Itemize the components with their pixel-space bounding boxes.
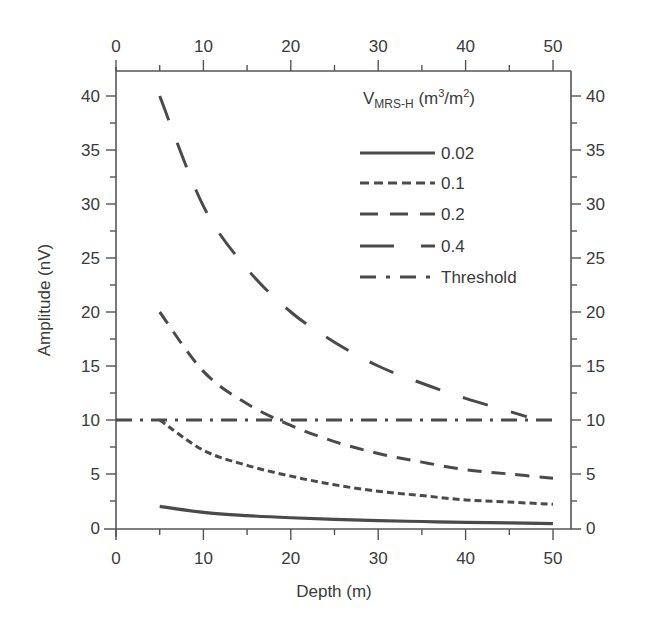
right-y-tick-label: 10	[586, 411, 605, 430]
legend-entry-label: 0.4	[441, 237, 465, 256]
top-x-tick-label: 20	[281, 37, 300, 56]
right-y-tick-label: 40	[586, 87, 605, 106]
legend-title: VMRS-H (m3/m2)	[363, 87, 475, 111]
right-y-tick-label: 5	[586, 465, 595, 484]
series-line-0-2	[160, 312, 553, 478]
left-y-tick-label: 20	[81, 303, 100, 322]
left-y-tick-label: 40	[81, 87, 100, 106]
bottom-x-tick-label: 10	[194, 549, 213, 568]
y-axis-title: Amplitude (nV)	[35, 244, 54, 356]
top-x-tick-label: 0	[111, 37, 120, 56]
left-y-tick-label: 25	[81, 249, 100, 268]
right-y-tick-label: 15	[586, 357, 605, 376]
legend: VMRS-H (m3/m2)0.020.10.20.4Threshold	[360, 87, 517, 287]
top-x-tick-label: 40	[456, 37, 475, 56]
left-y-tick-label: 5	[91, 465, 100, 484]
axis-ticks	[106, 60, 581, 540]
legend-entry-label: 0.1	[441, 174, 465, 193]
plot-frame	[104, 67, 581, 537]
top-x-tick-label: 10	[194, 37, 213, 56]
right-y-tick-label: 25	[586, 249, 605, 268]
right-y-tick-label: 0	[586, 519, 595, 538]
bottom-x-tick-label: 40	[456, 549, 475, 568]
bottom-x-tick-label: 0	[111, 549, 120, 568]
top-x-tick-label: 30	[369, 37, 388, 56]
left-y-tick-label: 10	[81, 411, 100, 430]
data-series	[116, 96, 553, 524]
left-y-tick-label: 35	[81, 141, 100, 160]
left-y-tick-label: 30	[81, 195, 100, 214]
tick-labels: 0010102020303040405050005510101515202025…	[81, 37, 605, 568]
bottom-x-tick-label: 20	[281, 549, 300, 568]
legend-entry-label: Threshold	[441, 268, 517, 287]
bottom-x-tick-label: 50	[544, 549, 563, 568]
bottom-x-tick-label: 30	[369, 549, 388, 568]
top-x-tick-label: 50	[544, 37, 563, 56]
right-y-tick-label: 20	[586, 303, 605, 322]
series-line-0-02	[160, 506, 553, 523]
right-y-tick-label: 35	[586, 141, 605, 160]
series-line-0-1	[160, 420, 553, 504]
x-axis-title: Depth (m)	[296, 582, 372, 601]
left-y-tick-label: 15	[81, 357, 100, 376]
right-y-tick-label: 30	[586, 195, 605, 214]
amplitude-vs-depth-chart: 0010102020303040405050005510101515202025…	[0, 0, 647, 636]
legend-entry-label: 0.02	[441, 144, 474, 163]
legend-entry-label: 0.2	[441, 205, 465, 224]
left-y-tick-label: 0	[91, 519, 100, 538]
